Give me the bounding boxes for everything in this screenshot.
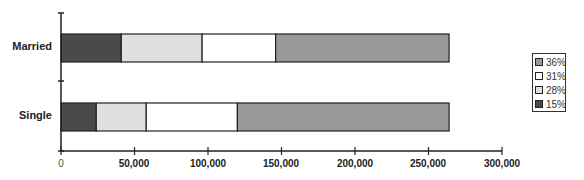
legend-swatch-icon bbox=[535, 72, 543, 80]
bar-segment bbox=[96, 103, 146, 131]
plot-area bbox=[0, 0, 584, 180]
stacked-bar-chart: Married Single 0 50,000 100,000 150,000 … bbox=[0, 0, 584, 180]
x-tick-100000: 100,000 bbox=[190, 158, 226, 169]
legend-label: 31% bbox=[546, 71, 566, 82]
bar-segment bbox=[276, 34, 449, 62]
x-tick-0: 0 bbox=[58, 158, 64, 169]
x-tick-50000: 50,000 bbox=[119, 158, 150, 169]
bar-segment bbox=[61, 34, 121, 62]
bar-segment bbox=[237, 103, 449, 131]
legend-label: 28% bbox=[546, 85, 566, 96]
legend-swatch-icon bbox=[535, 100, 543, 108]
bar-segment bbox=[121, 34, 202, 62]
x-tick-200000: 200,000 bbox=[337, 158, 373, 169]
legend-label: 15% bbox=[546, 99, 566, 110]
legend-item-31: 31% bbox=[535, 70, 566, 82]
category-label-single: Single bbox=[0, 109, 52, 121]
legend-swatch-icon bbox=[535, 86, 543, 94]
legend-label: 36% bbox=[546, 57, 566, 68]
legend-item-28: 28% bbox=[535, 84, 566, 96]
legend: 36% 31% 28% 15% bbox=[532, 53, 566, 112]
legend-item-36: 36% bbox=[535, 56, 566, 68]
category-label-married: Married bbox=[0, 40, 52, 52]
x-tick-250000: 250,000 bbox=[410, 158, 446, 169]
x-tick-150000: 150,000 bbox=[263, 158, 299, 169]
legend-swatch-icon bbox=[535, 58, 543, 66]
bar-segment bbox=[202, 34, 276, 62]
bar-segment bbox=[61, 103, 96, 131]
legend-item-15: 15% bbox=[535, 98, 566, 110]
bar-segment bbox=[146, 103, 237, 131]
x-tick-300000: 300,000 bbox=[484, 158, 520, 169]
